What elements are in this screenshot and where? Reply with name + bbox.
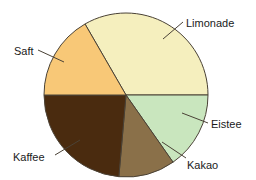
pie-label-kakao: Kakao [187,160,218,171]
pie-label-saft: Saft [14,46,34,57]
pie-label-kaffee: Kaffee [13,152,45,163]
pie-label-eistee: Eistee [211,119,242,130]
pie-slice-kaffee[interactable] [44,95,126,177]
pie-label-limonade: Limonade [186,18,234,29]
pie-chart: Limonade Saft Eistee Kakao Kaffee [0,0,256,180]
